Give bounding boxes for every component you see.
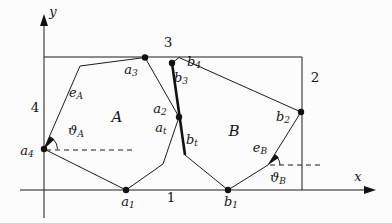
label-b1: b1 xyxy=(224,195,238,208)
label-a4: a4 xyxy=(20,144,34,157)
label-edge-ea: eA xyxy=(69,86,83,99)
y-axis-label: y xyxy=(49,5,56,18)
label-at: at xyxy=(155,121,166,134)
label-a2: a2 xyxy=(153,102,167,115)
theta-a-arc xyxy=(54,140,58,150)
vertex-dot-b2 xyxy=(298,109,304,115)
vertex-dot-a1 xyxy=(123,187,129,193)
theta-b-arc xyxy=(278,158,281,165)
label-theta-a: ϑA xyxy=(68,124,84,137)
label-b2: b2 xyxy=(276,110,290,123)
diagram-canvas xyxy=(0,0,392,223)
label-a1: a1 xyxy=(121,195,135,208)
edge-number-left: 4 xyxy=(31,101,40,115)
vertex-dot-a3 xyxy=(142,54,148,60)
label-b3: b3 xyxy=(174,71,188,84)
vertex-dot-b3 xyxy=(169,60,175,66)
edge-number-bottom: 1 xyxy=(167,191,176,205)
edge-number-top: 3 xyxy=(164,36,173,50)
x-axis-arrow-icon xyxy=(364,186,376,194)
label-theta-b: ϑB xyxy=(270,171,286,184)
geometry-diagram: y x 1 2 3 4 A B a1 a2 a3 a4 at b1 b2 b3 … xyxy=(0,0,392,223)
label-edge-eb: eB xyxy=(253,141,267,154)
vertex-dot-a2 xyxy=(176,114,182,120)
polygon-b-name: B xyxy=(228,124,239,139)
label-b4: b4 xyxy=(187,55,201,68)
vertex-dot-a4 xyxy=(41,146,47,152)
y-axis-arrow-icon xyxy=(40,14,48,26)
label-a3: a3 xyxy=(124,63,138,76)
edge-number-right: 2 xyxy=(311,71,320,85)
x-axis-label: x xyxy=(354,170,361,183)
label-bt: bt xyxy=(186,133,198,146)
polygon-a-name: A xyxy=(112,110,123,125)
vertex-dot-b1 xyxy=(225,187,231,193)
